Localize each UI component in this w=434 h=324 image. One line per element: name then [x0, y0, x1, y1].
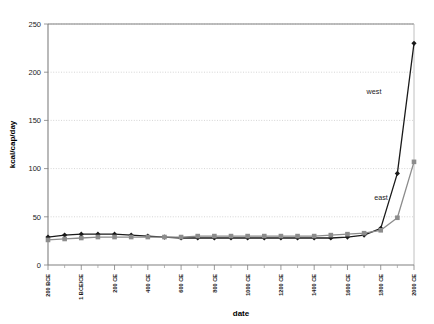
energy-capture-line-chart: 050100150200250200 BCE1 BCE/CE200 CE400 … — [0, 0, 434, 324]
marker-east-14 — [279, 234, 284, 239]
marker-east-22 — [412, 160, 417, 165]
marker-east-7 — [162, 235, 167, 240]
marker-east-11 — [229, 234, 234, 239]
marker-east-3 — [96, 235, 101, 240]
marker-east-8 — [179, 235, 184, 240]
marker-east-10 — [212, 234, 217, 239]
marker-east-16 — [312, 234, 317, 239]
marker-east-5 — [129, 235, 134, 240]
marker-east-19 — [362, 231, 367, 236]
y-tick-label-150: 150 — [28, 116, 41, 125]
series-label-east: east — [374, 193, 388, 202]
marker-east-21 — [395, 215, 400, 220]
x-tick-label-1400-ce: 1400 CE — [311, 274, 317, 296]
marker-east-15 — [295, 234, 300, 239]
x-tick-label-800-ce: 800 CE — [212, 274, 218, 293]
marker-east-4 — [112, 235, 117, 240]
plot-area — [48, 24, 414, 265]
y-tick-label-250: 250 — [28, 20, 41, 29]
marker-east-1 — [62, 237, 67, 242]
x-tick-label-400-ce: 400 CE — [145, 274, 151, 293]
x-tick-label-200-ce: 200 CE — [112, 274, 118, 293]
marker-east-6 — [146, 235, 151, 240]
y-tick-label-50: 50 — [33, 213, 41, 222]
x-tick-label-2000-ce: 2000 CE — [411, 274, 417, 296]
x-tick-label-1800-ce: 1800 CE — [378, 274, 384, 296]
y-axis-title: kcal/cap/day — [8, 120, 17, 168]
marker-east-18 — [345, 232, 350, 237]
y-tick-label-0: 0 — [37, 261, 41, 270]
marker-east-2 — [79, 236, 84, 241]
x-tick-label-1200-ce: 1200 CE — [278, 274, 284, 296]
y-tick-label-100: 100 — [28, 164, 41, 173]
marker-east-13 — [262, 234, 267, 239]
marker-east-20 — [378, 228, 383, 233]
x-tick-label-200-bce: 200 BCE — [45, 274, 51, 297]
x-tick-label-1000-ce: 1000 CE — [245, 274, 251, 296]
x-tick-label-600-ce: 600 CE — [178, 274, 184, 293]
y-tick-label-200: 200 — [28, 68, 41, 77]
marker-east-12 — [245, 234, 250, 239]
marker-east-0 — [46, 238, 51, 243]
chart-canvas: 050100150200250200 BCE1 BCE/CE200 CE400 … — [0, 0, 434, 324]
marker-east-17 — [329, 233, 334, 238]
x-axis-title: date — [233, 309, 250, 318]
x-tick-label-1-bce-ce: 1 BCE/CE — [78, 274, 84, 300]
series-label-west: west — [366, 87, 382, 96]
x-tick-label-1600-ce: 1600 CE — [345, 274, 351, 296]
marker-east-9 — [195, 234, 200, 239]
